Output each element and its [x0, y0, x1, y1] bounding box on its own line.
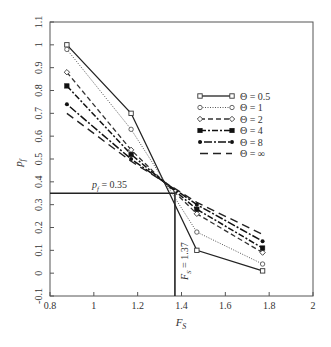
y-tick-label: 0.2 [33, 221, 44, 234]
x-tick-label: 1.6 [219, 300, 232, 311]
circle-filled-marker-icon [261, 239, 265, 243]
x-axis-title: FS [175, 316, 187, 331]
square-marker-icon [198, 94, 202, 98]
circle-filled-marker-icon [198, 140, 202, 144]
y-tick-label: 0.1 [33, 244, 44, 256]
series-path [67, 45, 263, 271]
diamond-marker-icon [260, 250, 265, 255]
legend-item: Θ = 2 [197, 114, 263, 125]
y-tick-label: 1.1 [33, 16, 44, 29]
y-tick-label: 0.9 [33, 61, 44, 74]
y-tick-label: 1 [33, 42, 44, 47]
y-tick-label: 0.4 [33, 176, 44, 189]
diamond-marker-icon [194, 211, 199, 216]
data-series [64, 43, 265, 273]
y-tick-label: 0.7 [33, 107, 44, 120]
series-line [65, 43, 265, 273]
circle-filled-marker-icon [230, 140, 234, 144]
x-tick-label: 1.2 [131, 300, 144, 311]
square-marker-icon [129, 111, 133, 115]
circle-marker-icon [195, 230, 199, 234]
circle-marker-icon [230, 105, 234, 109]
x-tick-label: 0.8 [44, 300, 57, 311]
legend-label: Θ = 0.5 [240, 91, 270, 102]
square-marker-icon [260, 269, 264, 273]
series-line [65, 47, 265, 266]
square-filled-marker-icon [65, 84, 69, 88]
legend-label: Θ = 2 [240, 114, 263, 125]
x-tick-label: 1 [91, 300, 96, 311]
legend-item: Θ = 1 [198, 102, 263, 113]
legend: Θ = 0.5Θ = 1Θ = 2Θ = 4Θ = 8Θ = ∞ [197, 91, 270, 160]
square-filled-marker-icon [260, 246, 264, 250]
pf-annotation: pf = 0.35 [91, 179, 127, 193]
square-marker-icon [195, 248, 199, 252]
circle-filled-marker-icon [65, 102, 69, 106]
x-tick-label: 1.8 [263, 300, 276, 311]
legend-label: Θ = ∞ [240, 148, 265, 159]
square-filled-marker-icon [230, 128, 234, 132]
fs-annotation: FS = 1.37 [179, 242, 193, 281]
circle-marker-icon [260, 262, 264, 266]
x-axis-ticks: 0.811.21.41.61.82 [44, 292, 316, 311]
y-tick-label: 0.8 [33, 84, 44, 97]
square-marker-icon [230, 94, 234, 98]
legend-item: Θ = 0.5 [198, 91, 271, 102]
legend-item: Θ = 8 [198, 137, 263, 148]
square-filled-marker-icon [195, 207, 199, 211]
circle-marker-icon [198, 105, 202, 109]
square-marker-icon [65, 43, 69, 47]
legend-item: Θ = ∞ [200, 148, 265, 159]
x-tick-label: 1.4 [175, 300, 188, 311]
series-line [64, 70, 265, 256]
diamond-marker-icon [197, 116, 202, 121]
y-axis-title: pf [12, 157, 27, 168]
legend-item: Θ = 4 [198, 125, 263, 136]
y-tick-label: 0.6 [33, 130, 44, 143]
square-filled-marker-icon [198, 128, 202, 132]
series-line [65, 102, 265, 243]
y-tick-label: 0.3 [33, 198, 44, 211]
y-axis-ticks: -0.100.10.20.30.40.50.60.70.80.911.1 [33, 16, 54, 304]
diamond-marker-icon [229, 116, 234, 121]
reference-lines [50, 193, 175, 296]
legend-label: Θ = 1 [240, 102, 263, 113]
y-tick-label: -0.1 [33, 288, 44, 304]
circle-marker-icon [129, 127, 133, 131]
series-path [67, 49, 263, 264]
y-tick-label: 0.5 [33, 153, 44, 166]
series-path [67, 86, 263, 248]
circle-marker-icon [65, 47, 69, 51]
x-tick-label: 2 [311, 300, 316, 311]
legend-label: Θ = 4 [240, 125, 263, 136]
chart: -0.100.10.20.30.40.50.60.70.80.911.1 0.8… [0, 0, 331, 347]
y-tick-label: 0 [33, 271, 44, 276]
legend-label: Θ = 8 [240, 137, 263, 148]
square-filled-marker-icon [129, 152, 133, 156]
